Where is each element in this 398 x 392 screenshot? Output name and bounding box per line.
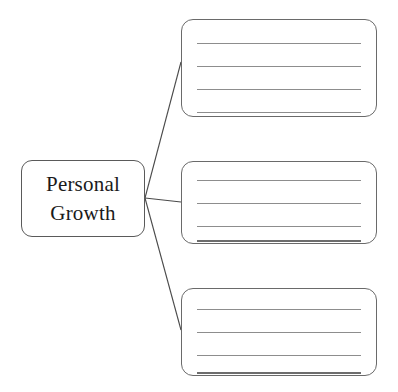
connector-line-middle <box>145 198 181 202</box>
note-line-3-2[interactable] <box>197 332 361 333</box>
branch-note-box-1[interactable] <box>181 19 377 117</box>
note-line-3-1[interactable] <box>197 309 361 310</box>
note-line-3-3[interactable] <box>197 355 361 356</box>
topic-label-line-1: Personal <box>46 170 120 199</box>
note-line-1-1[interactable] <box>197 43 361 44</box>
rule-lines-group-2 <box>182 162 376 243</box>
connector-line-bottom <box>145 198 181 330</box>
rule-lines-group-1 <box>182 20 376 116</box>
branch-note-box-2[interactable] <box>181 161 377 244</box>
note-line-3-4[interactable] <box>197 372 361 374</box>
note-line-2-1[interactable] <box>197 180 361 181</box>
topic-label-line-2: Growth <box>50 199 115 228</box>
rule-lines-group-3 <box>182 289 376 375</box>
note-line-1-2[interactable] <box>197 66 361 67</box>
diagram-canvas: Personal Growth <box>0 0 398 392</box>
note-line-2-4[interactable] <box>197 240 361 242</box>
note-line-1-4[interactable] <box>197 112 361 113</box>
connector-line-top <box>145 62 181 198</box>
topic-box-personal-growth[interactable]: Personal Growth <box>21 160 145 237</box>
note-line-1-3[interactable] <box>197 89 361 90</box>
note-line-2-2[interactable] <box>197 203 361 204</box>
note-line-2-3[interactable] <box>197 226 361 227</box>
branch-note-box-3[interactable] <box>181 288 377 376</box>
